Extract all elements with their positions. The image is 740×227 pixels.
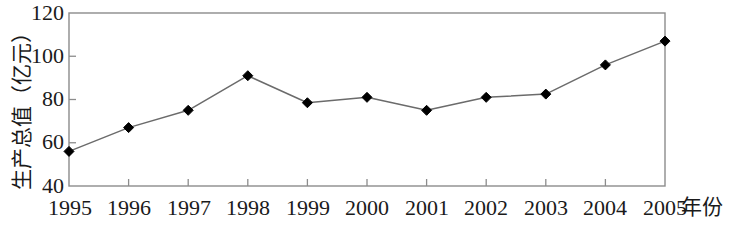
- x-axis-title: 年份: [681, 195, 723, 219]
- x-axis-tick-labels: 1995 1996 1997 1998 1999 2000 2001 2002 …: [0, 0, 740, 227]
- chart-figure: 生产总值（亿元） 120 100 80 60 40 1995 1996 1997…: [0, 0, 740, 227]
